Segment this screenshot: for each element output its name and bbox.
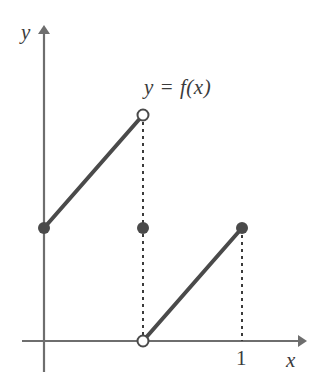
branch-right-segment bbox=[143, 228, 242, 341]
function-graph-figure: y x y = f(x) 1 bbox=[0, 0, 311, 381]
y-axis-label: y bbox=[21, 22, 30, 43]
function-equation-label: y = f(x) bbox=[144, 77, 211, 98]
y-axis-arrow-icon bbox=[38, 25, 50, 34]
guide-lines-group bbox=[143, 115, 242, 341]
x-axis-label: x bbox=[286, 350, 295, 371]
branch-left-segment bbox=[44, 115, 143, 228]
x-tick-label-one: 1 bbox=[236, 348, 247, 369]
graph-canvas bbox=[0, 0, 311, 381]
left-closed-endpoint-dot bbox=[38, 222, 50, 234]
x-axis-arrow-icon bbox=[298, 335, 307, 347]
right-closed-endpoint-dot bbox=[236, 222, 248, 234]
value-at-half-dot bbox=[137, 222, 149, 234]
upper-open-endpoint-circle bbox=[138, 110, 149, 121]
lower-open-endpoint-circle bbox=[138, 336, 149, 347]
